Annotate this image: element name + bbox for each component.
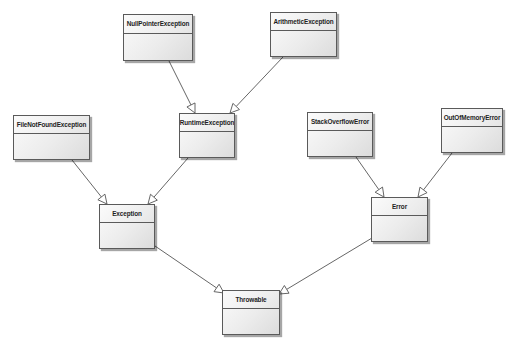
uml-class-diagram: NullPointerException ArithmeticException… xyxy=(0,0,516,349)
class-outofmemoryerror[interactable]: OutOfMemoryError xyxy=(441,108,503,153)
class-attributes-compartment xyxy=(100,223,154,248)
class-throwable[interactable]: Throwable xyxy=(222,290,280,335)
generalization-arrowhead-icon xyxy=(418,187,427,197)
class-nullpointerexception[interactable]: NullPointerException xyxy=(123,14,193,61)
inheritance-line xyxy=(72,160,101,197)
class-attributes-compartment xyxy=(442,127,502,152)
class-attributes-compartment xyxy=(14,134,89,159)
class-attributes-compartment xyxy=(372,216,427,241)
inheritance-line xyxy=(154,158,188,197)
inheritance-line xyxy=(424,153,452,190)
class-arithmeticexception[interactable]: ArithmeticException xyxy=(270,12,337,57)
class-attributes-compartment xyxy=(271,31,336,56)
class-attributes-compartment xyxy=(223,309,279,334)
class-filenotfoundexception[interactable]: FileNotFoundException xyxy=(13,115,90,160)
generalization-arrowhead-icon xyxy=(279,286,289,294)
generalization-arrowhead-icon xyxy=(375,187,384,197)
generalization-arrowhead-icon xyxy=(230,103,239,113)
class-stackoverflowerror[interactable]: StackOverflowError xyxy=(307,112,373,157)
class-name-label: FileNotFoundException xyxy=(14,116,89,134)
class-attributes-compartment xyxy=(124,34,192,60)
inheritance-line xyxy=(356,157,379,190)
class-name-label: Exception xyxy=(100,205,154,223)
generalization-arrowhead-icon xyxy=(98,194,107,204)
class-name-label: Error xyxy=(372,198,427,216)
class-attributes-compartment xyxy=(180,132,234,157)
class-name-label: Throwable xyxy=(223,291,279,309)
generalization-arrowhead-icon xyxy=(187,103,195,113)
inheritance-line xyxy=(236,57,283,106)
class-name-label: NullPointerException xyxy=(124,15,192,34)
class-name-label: RuntimeException xyxy=(180,114,234,132)
class-attributes-compartment xyxy=(308,131,372,156)
inheritance-line xyxy=(169,61,191,105)
class-error[interactable]: Error xyxy=(371,197,428,242)
generalization-arrowhead-icon xyxy=(148,194,157,204)
class-name-label: ArithmeticException xyxy=(271,13,336,31)
inheritance-line xyxy=(287,238,372,289)
class-runtimeexception[interactable]: RuntimeException xyxy=(179,113,235,158)
class-name-label: StackOverflowError xyxy=(308,113,372,131)
inheritance-line xyxy=(155,246,217,288)
class-name-label: OutOfMemoryError xyxy=(442,109,502,127)
class-exception[interactable]: Exception xyxy=(99,204,155,249)
